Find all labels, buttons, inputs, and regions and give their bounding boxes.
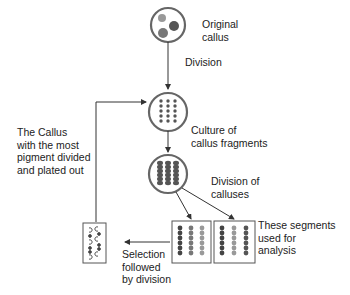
segments-box-2 xyxy=(214,221,255,263)
segments-box-1 xyxy=(172,221,211,263)
label-callus-most-pigment: The Callus with the most pigment divided… xyxy=(17,126,91,176)
selected-segments-box xyxy=(83,223,106,263)
label-division: Division xyxy=(185,56,222,69)
original-callus-dish xyxy=(151,8,185,42)
arrow-to-box-1 xyxy=(176,192,191,219)
label-segments-analysis: These segments used for analysis xyxy=(258,219,336,257)
label-selection: Selection followed by division xyxy=(122,248,171,286)
callus-fragments-dish xyxy=(149,93,187,131)
label-culture: Culture of callus fragments xyxy=(191,124,267,149)
label-original-callus: Original callus xyxy=(202,18,238,43)
feedback-arrow xyxy=(96,102,146,222)
label-division-of-calluses: Division of calluses xyxy=(211,175,259,200)
cultured-calluses-dish xyxy=(149,155,187,193)
